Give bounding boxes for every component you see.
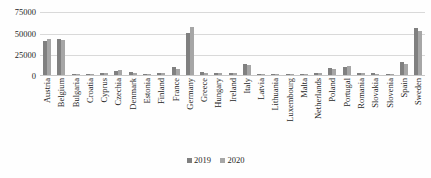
x-axis-tick: Cyprus	[97, 78, 111, 148]
bar-2020	[133, 73, 137, 75]
legend-label: 2019	[194, 156, 211, 165]
bar-2020	[147, 74, 151, 75]
x-axis-tick-label: France	[171, 78, 180, 101]
bar-2020	[404, 64, 408, 75]
x-axis-tick-label: Luxembourg	[285, 78, 294, 122]
bar-2020	[47, 39, 51, 75]
bar-chart: 0250005000075000 AustriaBelgiumBulgariaC…	[0, 0, 431, 178]
x-axis-tick: Italy	[240, 78, 254, 148]
x-axis-tick-label: Germany	[186, 78, 195, 110]
bar-2020	[247, 65, 251, 75]
bar-2020	[290, 74, 294, 75]
bar-2020	[118, 70, 122, 75]
x-axis-tick-label: Sweden	[414, 78, 423, 105]
x-axis-tick: Germany	[183, 78, 197, 148]
x-axis-tick-label: Malta	[300, 78, 309, 98]
bar-2020	[347, 66, 351, 75]
bar-2020	[233, 73, 237, 75]
bar-group	[225, 8, 239, 75]
x-axis-tick: Slovakia	[368, 78, 382, 148]
x-axis-tick: Austria	[40, 78, 54, 148]
x-axis-tick: France	[168, 78, 182, 148]
x-axis-tick: Slovenia	[382, 78, 396, 148]
x-axis-tick-label: Austria	[43, 78, 52, 103]
x-axis-tick-label: Bulgaria	[71, 78, 80, 107]
x-axis-tick-label: Lithuania	[271, 78, 280, 111]
x-axis-tick-label: Croatia	[86, 78, 95, 103]
x-axis-tick-label: Portugal	[342, 78, 351, 107]
bar-2020	[390, 74, 394, 75]
bar-group	[69, 8, 83, 75]
bar-group	[354, 8, 368, 75]
bar-series-container	[40, 8, 425, 75]
bar-group	[111, 8, 125, 75]
x-axis-tick: Sweden	[411, 78, 425, 148]
bar-2020	[176, 69, 180, 75]
bar-group	[268, 8, 282, 75]
bar-group	[411, 8, 425, 75]
legend-item[interactable]: 2020	[220, 156, 245, 165]
x-axis-tick: Estonia	[140, 78, 154, 148]
x-axis-tick: Luxembourg	[283, 78, 297, 148]
bar-2020	[318, 73, 322, 75]
bar-group	[168, 8, 182, 75]
bar-2020	[204, 73, 208, 75]
bar-2020	[361, 73, 365, 75]
y-axis-tick-label: 0	[32, 72, 36, 81]
x-axis-tick: Latvia	[254, 78, 268, 148]
bar-group	[368, 8, 382, 75]
y-axis-tick-label: 75000	[15, 8, 36, 17]
x-axis-tick-label: Hungary	[214, 78, 223, 108]
bar-group	[140, 8, 154, 75]
plot-area	[40, 8, 425, 76]
bar-2020	[190, 27, 194, 75]
bar-group	[397, 8, 411, 75]
x-axis-tick-label: Cyprus	[100, 78, 109, 103]
legend-item[interactable]: 2019	[187, 156, 212, 165]
x-axis-tick: Croatia	[83, 78, 97, 148]
x-axis-tick: Denmark	[126, 78, 140, 148]
bar-group	[297, 8, 311, 75]
bar-2020	[261, 74, 265, 75]
x-axis-tick-label: Italy	[243, 78, 252, 94]
bar-group	[240, 8, 254, 75]
bar-2020	[161, 73, 165, 75]
x-axis-tick-label: Estonia	[143, 78, 152, 104]
x-axis-tick-label: Latvia	[257, 78, 266, 100]
x-axis-tick-label: Netherlands	[314, 78, 323, 119]
x-axis-tick-label: Poland	[328, 78, 337, 102]
bar-group	[183, 8, 197, 75]
x-axis-tick-label: Ireland	[228, 78, 237, 102]
legend-swatch-icon	[187, 158, 192, 163]
bar-2020	[332, 69, 336, 75]
legend-label: 2020	[228, 156, 245, 165]
x-axis-tick-label: Spain	[400, 78, 409, 97]
x-axis-tick: Belgium	[54, 78, 68, 148]
x-axis-tick: Finland	[154, 78, 168, 148]
x-axis-tick: Lithuania	[268, 78, 282, 148]
x-axis-tick: Ireland	[225, 78, 239, 148]
bar-2020	[418, 31, 422, 75]
x-axis-tick-label: Greece	[200, 78, 209, 102]
x-axis-tick: Hungary	[211, 78, 225, 148]
bar-2020	[218, 73, 222, 75]
bar-group	[54, 8, 68, 75]
x-axis-tick-label: Slovenia	[385, 78, 394, 108]
x-axis-tick-label: Denmark	[128, 78, 137, 110]
x-axis-tick: Poland	[325, 78, 339, 148]
bar-2020	[375, 74, 379, 75]
bar-group	[254, 8, 268, 75]
bar-2020	[76, 74, 80, 75]
x-axis-tick: Czechia	[111, 78, 125, 148]
y-axis-tick-label: 25000	[15, 51, 36, 60]
x-axis-tick: Netherlands	[311, 78, 325, 148]
x-axis-tick: Malta	[297, 78, 311, 148]
bar-group	[154, 8, 168, 75]
bar-2020	[304, 74, 308, 75]
bar-2020	[104, 73, 108, 75]
x-axis-tick: Portugal	[340, 78, 354, 148]
x-axis-tick: Spain	[397, 78, 411, 148]
bar-group	[197, 8, 211, 75]
y-axis-tick-label: 50000	[15, 29, 36, 38]
bar-group	[283, 8, 297, 75]
